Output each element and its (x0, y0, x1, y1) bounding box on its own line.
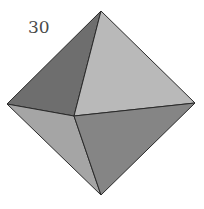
octahedron-figure (0, 0, 204, 209)
